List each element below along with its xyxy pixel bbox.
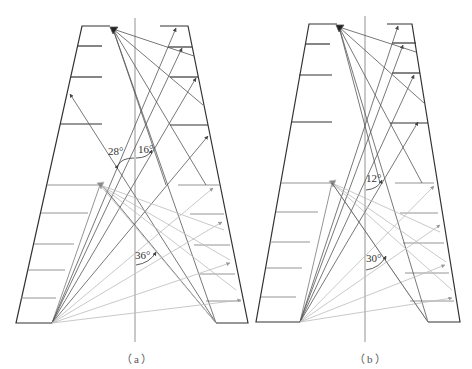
right-structure (160, 26, 248, 323)
angle-label: 12° (366, 172, 381, 184)
panel-b (256, 16, 460, 342)
rays-from-mid-left (97, 182, 236, 323)
angle-label: 28° (108, 145, 123, 157)
ray-diagram-figure: 28° 16° 36° 12° 30° (0, 0, 472, 369)
angle-label: 16° (138, 143, 153, 155)
left-inner-wall (300, 183, 332, 322)
left-structure (16, 26, 110, 323)
angle-label: 36° (135, 249, 150, 261)
rays-from-top-source (110, 27, 216, 323)
angle-arc-28 (118, 158, 134, 165)
panel-b-caption: （b） (354, 350, 388, 366)
rays-from-bottom-left-dark (52, 28, 208, 323)
panel-a-caption: （a） (121, 350, 154, 366)
angle-label: 30° (366, 252, 381, 264)
panel-a (16, 18, 248, 342)
left-structure-lower-floors (261, 183, 332, 297)
right-structure (387, 24, 460, 322)
left-structure (256, 24, 337, 322)
left-structure-lower-floors (21, 185, 100, 298)
rays-from-bottom-left-dark (300, 26, 418, 322)
